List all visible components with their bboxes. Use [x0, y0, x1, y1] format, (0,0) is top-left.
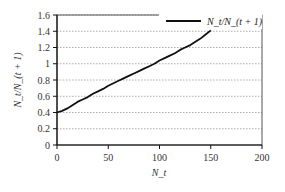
- y-tick-label: 1: [45, 58, 50, 69]
- y-tick-label: 1.6: [38, 10, 51, 21]
- x-tick-label: 100: [152, 152, 167, 163]
- line-chart: 00.20.40.60.811.21.41.6 050100150200 N_t…: [0, 0, 285, 192]
- series-line: [57, 30, 211, 112]
- y-tick-label: 0.2: [38, 123, 51, 134]
- legend: N_t/N_(t + 1): [159, 14, 263, 29]
- y-tick-label: 0: [45, 140, 50, 151]
- data-series: [57, 30, 211, 112]
- y-axis-title: N_t/N_(t + 1): [12, 52, 24, 109]
- y-axis-ticks: 00.20.40.60.811.21.41.6: [38, 10, 58, 151]
- x-axis-ticks: 050100150200: [55, 145, 270, 163]
- y-tick-label: 1.2: [38, 42, 51, 53]
- y-tick-label: 0.4: [38, 107, 51, 118]
- y-tick-label: 1.4: [38, 26, 51, 37]
- gridlines: [57, 15, 262, 129]
- y-tick-label: 0.8: [38, 75, 51, 86]
- y-tick-label: 0.6: [38, 91, 51, 102]
- x-tick-label: 150: [203, 152, 218, 163]
- x-tick-label: 200: [255, 152, 270, 163]
- x-tick-label: 0: [55, 152, 60, 163]
- x-axis-title: N_t: [151, 167, 167, 178]
- legend-label: N_t/N_(t + 1): [206, 16, 263, 28]
- x-tick-label: 50: [103, 152, 113, 163]
